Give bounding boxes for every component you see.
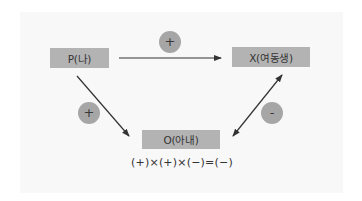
sign-top-plus-icon: +	[159, 31, 181, 53]
sign-right-minus-icon: -	[261, 102, 283, 124]
node-p: P(나)	[50, 48, 109, 68]
balance-equation: (+)×(+)×(−)=(−)	[126, 156, 238, 169]
node-o-label: O(아내)	[164, 132, 199, 147]
node-x-label: X(여동생)	[249, 50, 293, 65]
node-o: O(아내)	[142, 130, 220, 149]
relation-arrows	[0, 0, 362, 201]
node-p-label: P(나)	[68, 51, 91, 66]
node-x: X(여동생)	[232, 47, 310, 67]
sign-left-plus-icon: +	[78, 102, 100, 124]
